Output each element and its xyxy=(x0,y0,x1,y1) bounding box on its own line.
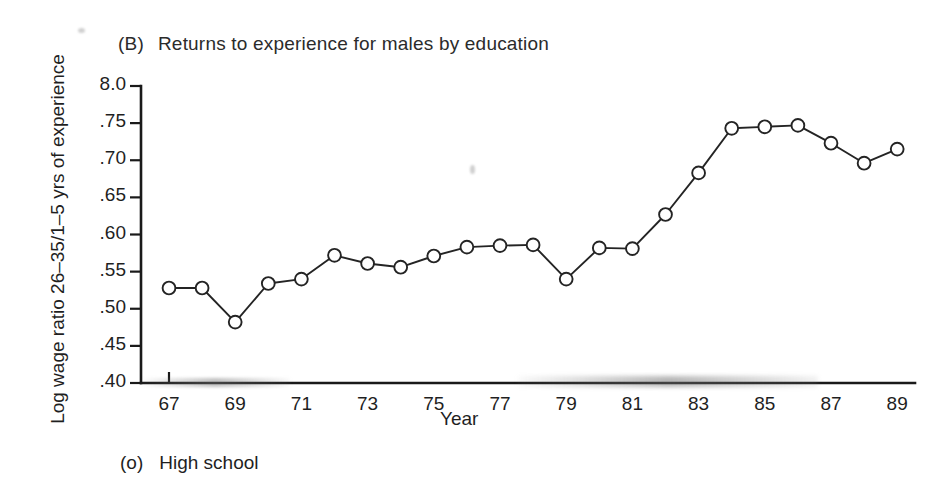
data-point-marker xyxy=(792,119,805,132)
data-point-marker xyxy=(858,157,871,170)
data-point-marker xyxy=(262,277,275,290)
data-point-marker xyxy=(626,242,639,255)
data-point-marker xyxy=(229,316,242,329)
data-point-marker xyxy=(196,282,209,295)
data-point-marker xyxy=(461,241,474,254)
data-point-marker xyxy=(361,257,374,270)
scan-artifact-left xyxy=(140,378,290,387)
data-point-marker xyxy=(725,122,738,135)
data-point-marker xyxy=(527,239,540,252)
data-point-marker xyxy=(659,208,672,221)
data-point-marker xyxy=(593,242,606,255)
data-point-marker xyxy=(692,167,705,180)
scan-speck-2 xyxy=(470,165,475,174)
data-point-marker xyxy=(494,239,507,252)
data-point-marker xyxy=(295,273,308,286)
data-point-marker xyxy=(758,120,771,133)
data-point-marker xyxy=(163,282,176,295)
data-point-marker xyxy=(560,273,573,286)
data-point-marker xyxy=(394,261,407,274)
data-point-marker xyxy=(427,250,440,263)
data-point-marker xyxy=(891,143,904,156)
plot-canvas xyxy=(0,0,949,489)
series-line-high-school xyxy=(169,125,897,322)
data-point-marker xyxy=(328,249,341,262)
series-markers-high-school xyxy=(163,119,904,329)
figure-panel-b: (B)Returns to experience for males by ed… xyxy=(0,0,949,489)
scan-speck-1 xyxy=(78,28,85,33)
scan-artifact-right xyxy=(518,376,818,387)
data-point-marker xyxy=(825,137,838,150)
y-tick-marks xyxy=(130,86,141,383)
